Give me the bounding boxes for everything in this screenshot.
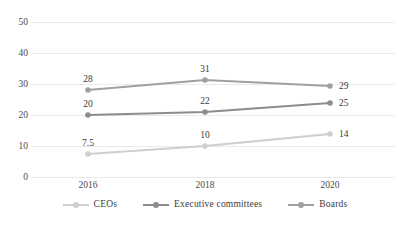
legend-item-boards[interactable]: Boards <box>288 199 347 209</box>
series-boards <box>85 77 333 93</box>
line-chart: 50 40 30 20 10 0 2016 2018 2020 28 <box>0 0 410 225</box>
point-exec-2018 <box>202 109 208 115</box>
data-label-ceos-2020: 14 <box>339 129 349 139</box>
point-ceos-2020 <box>327 131 333 137</box>
legend-item-executive-committees[interactable]: Executive committees <box>143 199 262 209</box>
legend-item-ceos[interactable]: CEOs <box>63 199 118 209</box>
point-exec-2020 <box>327 100 333 106</box>
legend-label-ceos: CEOs <box>94 199 118 209</box>
point-ceos-2018 <box>202 143 208 149</box>
point-exec-2016 <box>85 112 91 118</box>
chart-plot-area <box>0 0 410 225</box>
chart-legend: CEOs Executive committees Boards <box>0 199 410 209</box>
data-label-exec-2016: 20 <box>73 99 103 109</box>
data-label-boards-2020: 29 <box>339 81 349 91</box>
point-boards-2018 <box>202 77 208 83</box>
legend-label-executive-committees: Executive committees <box>174 199 262 209</box>
point-ceos-2016 <box>85 151 91 157</box>
data-label-boards-2016: 28 <box>73 74 103 84</box>
data-label-ceos-2018: 10 <box>190 130 220 140</box>
legend-marker-executive-committees-icon <box>143 200 169 209</box>
point-boards-2016 <box>85 87 91 93</box>
legend-marker-ceos-icon <box>63 200 89 209</box>
point-boards-2020 <box>327 83 333 89</box>
data-label-boards-2018: 31 <box>190 64 220 74</box>
legend-marker-boards-icon <box>288 200 314 209</box>
data-label-exec-2018: 22 <box>190 96 220 106</box>
data-label-exec-2020: 25 <box>339 98 349 108</box>
data-label-ceos-2016: 7.5 <box>73 138 103 148</box>
legend-label-boards: Boards <box>319 199 347 209</box>
